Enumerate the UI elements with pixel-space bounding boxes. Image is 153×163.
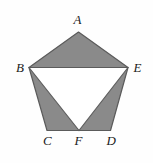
- vertex-label-D: D: [107, 134, 116, 147]
- vertex-label-F: F: [75, 134, 83, 147]
- vertex-label-C: C: [43, 134, 52, 147]
- geometry-figure: A B C D E F: [0, 0, 153, 163]
- shaded-region-top-triangle-ABE: [29, 32, 128, 68]
- vertex-label-E: E: [134, 61, 142, 74]
- vertex-label-A: A: [74, 13, 82, 26]
- vertex-label-B: B: [16, 61, 24, 74]
